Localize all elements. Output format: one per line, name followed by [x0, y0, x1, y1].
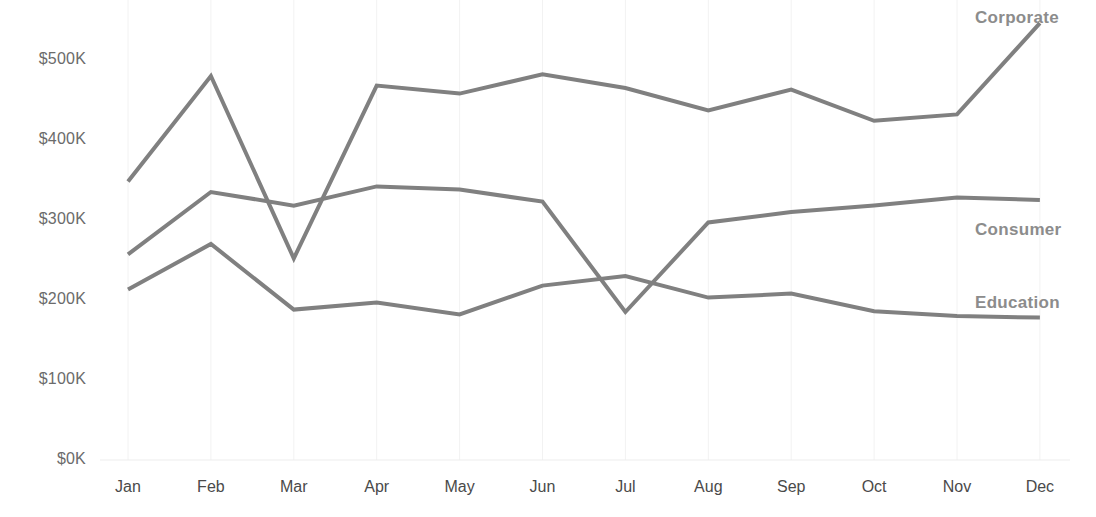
series-label-education[interactable]: Education — [975, 293, 1060, 313]
x-axis-tick-label-mar: Mar — [280, 478, 308, 496]
x-axis: JanFebMarAprMayJunJulAugSepOctNovDec — [0, 0, 1096, 517]
x-axis-tick-label-feb: Feb — [197, 478, 225, 496]
x-axis-tick-label-nov: Nov — [943, 478, 971, 496]
x-axis-tick-label-oct: Oct — [862, 478, 887, 496]
x-axis-tick-label-apr: Apr — [364, 478, 389, 496]
x-axis-tick-label-jun: Jun — [530, 478, 556, 496]
x-axis-tick-label-jan: Jan — [115, 478, 141, 496]
series-label-consumer[interactable]: Consumer — [975, 220, 1061, 240]
x-axis-tick-label-may: May — [444, 478, 474, 496]
series-label-corporate[interactable]: Corporate — [975, 8, 1059, 28]
x-axis-tick-label-dec: Dec — [1026, 478, 1054, 496]
x-axis-tick-label-sep: Sep — [777, 478, 805, 496]
line-chart: $500K$400K$300K$200K$100K$0K JanFebMarAp… — [0, 0, 1096, 517]
x-axis-tick-label-jul: Jul — [615, 478, 635, 496]
x-axis-tick-label-aug: Aug — [694, 478, 722, 496]
